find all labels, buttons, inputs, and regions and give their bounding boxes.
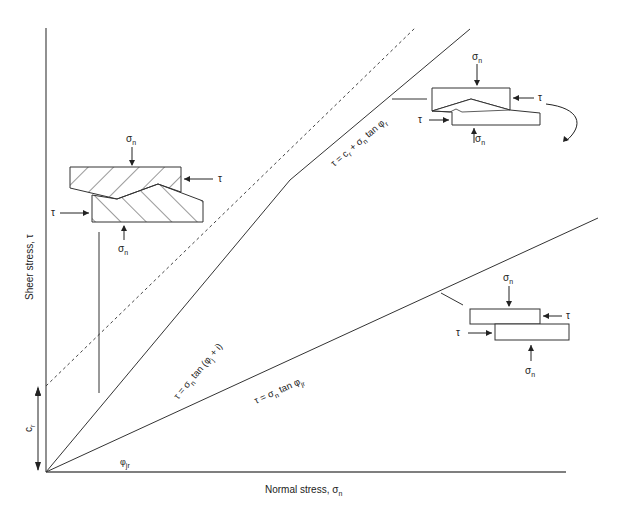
curved-arrow-icon — [546, 104, 577, 141]
arrow-right-icon — [486, 330, 492, 336]
shear-strength-diagram: Sheer stress, τ Normal stress, σn cr φjr… — [0, 0, 622, 505]
arrow-down-icon — [35, 462, 41, 471]
arrow-down-icon — [474, 80, 480, 86]
sigma-n-bottom-label: σn — [118, 243, 128, 256]
sigma-n-top-label: σn — [126, 133, 136, 146]
arrow-down-icon — [129, 160, 135, 166]
tau-right-label: τ — [566, 310, 570, 321]
cr-label: cr — [23, 424, 36, 432]
arrow-right-icon — [83, 210, 89, 216]
label-residual-friction-line: τ = σn tan φjr — [252, 374, 307, 409]
arrow-left-icon — [184, 176, 190, 182]
line-dilatant — [46, 180, 290, 472]
label-residual-cohesion-line: τ = cr + σn tan φr — [328, 115, 390, 170]
tau-left-label: τ — [51, 207, 55, 218]
arrow-right-icon — [443, 117, 449, 123]
sigma-n-top-label: σn — [503, 272, 513, 285]
tau-right-label: τ — [218, 173, 222, 184]
angle-label: φjr — [120, 457, 130, 470]
arrow-left-icon — [543, 313, 549, 319]
arrow-up-icon — [121, 225, 127, 231]
diagram-canvas: Sheer stress, τ Normal stress, σn cr φjr… — [0, 0, 622, 505]
sigma-n-bottom-label: σn — [525, 365, 535, 378]
label-dilatant-line: τ = σn tan (φj + i) — [171, 341, 227, 404]
tau-left-label: τ — [418, 114, 422, 125]
x-axis-label: Normal stress, σn — [265, 484, 342, 497]
y-axis-label: Sheer stress, τ — [24, 234, 35, 300]
inset-rough-joint: σn τ τ σn — [51, 133, 222, 256]
arrow-down-icon — [506, 301, 512, 307]
tau-right-label: τ — [538, 92, 542, 103]
inset-sawtooth-joint: σn τ τ σn — [418, 51, 577, 146]
arrow-up-icon — [35, 386, 41, 396]
leader-bottom-right — [441, 293, 463, 305]
arrow-left-icon — [513, 95, 519, 101]
tau-left-label: τ — [456, 327, 460, 338]
sigma-n-bottom-label: σn — [475, 133, 485, 146]
sigma-n-top-label: σn — [472, 51, 482, 64]
line-residual-friction — [46, 218, 598, 472]
arrow-up-icon — [528, 345, 534, 351]
inset-smooth-joint: σn τ τ σn — [456, 272, 570, 378]
